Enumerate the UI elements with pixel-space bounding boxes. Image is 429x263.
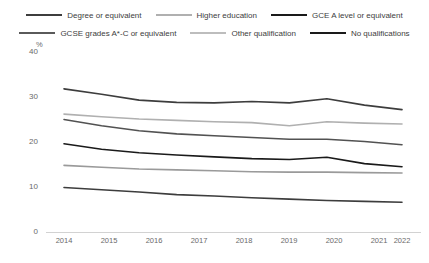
series-line-higher-education (64, 114, 402, 126)
plot-area (0, 0, 429, 263)
series-line-degree-or-equivalent (64, 89, 402, 110)
series-lines (64, 89, 402, 202)
series-line-no-qualifications (64, 187, 402, 202)
series-line-gcse-grades-a-c-or-equivalent (64, 144, 402, 167)
line-chart: Degree or equivalent Higher education GC… (0, 0, 429, 263)
series-line-other-qualification (64, 165, 402, 173)
